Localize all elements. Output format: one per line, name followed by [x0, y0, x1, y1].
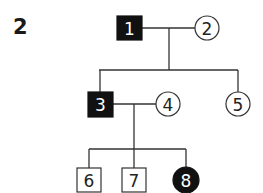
- individual-1-label: 1: [124, 19, 135, 39]
- individual-8-label: 8: [181, 171, 192, 191]
- individual-6: 6: [77, 168, 101, 192]
- individual-5: 5: [226, 92, 250, 116]
- individual-2: 2: [195, 16, 219, 40]
- individual-5-label: 5: [233, 95, 244, 115]
- individual-4-label: 4: [163, 95, 174, 115]
- individual-1: 1: [117, 16, 142, 40]
- individual-7-label: 7: [129, 171, 140, 191]
- individual-3: 3: [88, 92, 113, 117]
- pedigree-diagram: 1 2 3 4 5 6 7 8: [0, 0, 263, 193]
- individual-6-label: 6: [84, 171, 95, 191]
- individual-3-label: 3: [95, 95, 106, 115]
- individual-2-label: 2: [202, 19, 213, 39]
- individual-4: 4: [156, 92, 180, 116]
- individual-7: 7: [122, 168, 146, 192]
- individual-8: 8: [173, 167, 199, 193]
